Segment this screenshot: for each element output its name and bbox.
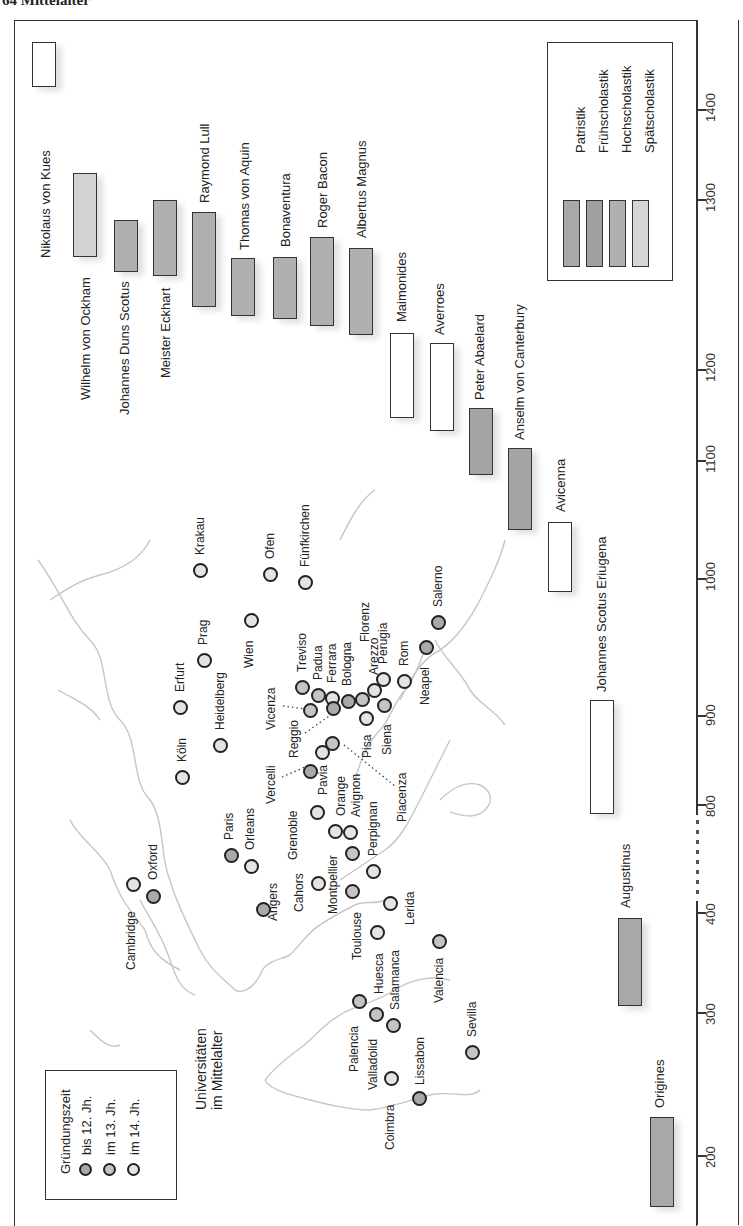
axis-tick-label: 900 — [703, 704, 718, 726]
city-marker-bologna — [341, 694, 356, 709]
city-label-vicenza: Vicenza — [264, 688, 278, 730]
city-marker-cambridge — [126, 877, 141, 892]
legend-dot-12th — [79, 1163, 92, 1176]
legend-swatch-spaetscholastik — [632, 200, 649, 267]
bar-augustinus — [618, 918, 642, 1006]
page-header: 64 Mittelalter — [2, 0, 90, 9]
city-marker-treviso — [295, 680, 310, 695]
label-averroes: Averroes — [432, 283, 447, 335]
city-label-lerida: Lerida — [403, 892, 417, 925]
city-label-orange: Orange — [334, 776, 348, 816]
bar-meister-eckhart — [153, 200, 177, 276]
map-title: Universitäten im Mittelalter — [193, 1028, 225, 1110]
legend-swatch-fruehscholastik — [586, 200, 603, 267]
city-label-pavia: Pavia — [316, 765, 330, 795]
city-label-florenz: Florenz — [358, 602, 372, 642]
city-label-palencia: Palencia — [347, 1026, 361, 1072]
label-nikolaus-von-kues: Nikolaus von Kues — [38, 150, 53, 258]
city-label-perpignan: Perpignan — [366, 801, 380, 856]
city-label-lissabon: Lissabon — [413, 1037, 427, 1085]
city-marker-valladolid — [369, 1007, 384, 1022]
label-avicenna: Avicenna — [553, 459, 568, 512]
city-marker-ofen — [263, 567, 278, 582]
axis-tick-label: 1200 — [703, 353, 718, 382]
legend-label-hochscholastik: Hochscholastik — [619, 66, 634, 153]
city-label-siena: Siena — [380, 724, 394, 755]
label-meister-eckhart: Meister Eckhart — [158, 288, 173, 378]
axis-tick-label: 200 — [703, 1146, 718, 1168]
city-marker-perugia — [376, 672, 391, 687]
city-marker-padua — [311, 688, 326, 703]
city-marker-prag — [197, 653, 212, 668]
bar-nikolaus-von-kues — [32, 42, 56, 87]
label-augustinus: Augustinus — [618, 844, 633, 908]
bar-thomas-von-aquin — [231, 258, 255, 316]
city-marker-orange — [328, 824, 343, 839]
city-label-pisa: Pisa — [360, 735, 374, 758]
period-legend: Patristik Frühscholastik Hochscholastik … — [547, 42, 673, 281]
city-marker-fuenfkirchen — [298, 575, 313, 590]
city-label-paris: Paris — [222, 813, 236, 840]
city-marker-salerno — [431, 615, 446, 630]
city-label-valencia: Valencia — [432, 958, 446, 1003]
city-label-orleans: Orleans — [243, 808, 257, 850]
city-label-reggio: Reggio — [287, 720, 301, 758]
label-johannes-duns-scotus: Johannes Duns Scotus — [117, 281, 132, 415]
axis-tick-label: 1000 — [703, 562, 718, 591]
label-wilhelm-von-ockham: Wilhelm von Ockham — [78, 277, 93, 400]
bar-wilhelm-von-ockham — [73, 173, 97, 257]
legend-label-14th: im 14. Jh. — [127, 1099, 142, 1155]
city-label-treviso: Treviso — [295, 633, 309, 672]
city-label-cambridge: Cambridge — [124, 911, 138, 970]
city-marker-perpignan — [366, 864, 381, 879]
city-marker-cahors — [311, 876, 326, 891]
city-marker-oxford — [146, 889, 161, 904]
city-marker-huesca — [370, 925, 385, 940]
city-marker-pisa — [359, 711, 374, 726]
axis-tick-label: 800 — [703, 795, 718, 817]
city-label-erfurt: Erfurt — [173, 663, 187, 692]
city-marker-lissabon — [412, 1091, 427, 1106]
city-label-ofen: Ofen — [263, 533, 277, 559]
label-raymond-lull: Raymond Lull — [197, 124, 212, 204]
legend-label-13th: im 13. Jh. — [103, 1099, 118, 1155]
legend-swatch-hochscholastik — [609, 200, 626, 267]
city-marker-paris — [224, 848, 239, 863]
city-label-bologna: Bologna — [340, 642, 354, 686]
label-anselm-von-canterbury: Anselm von Canterbury — [512, 304, 527, 440]
city-label-toulouse: Toulouse — [350, 912, 364, 960]
founding-legend-title: Gründungszeit — [58, 1089, 73, 1174]
legend-label-fruehscholastik: Frühscholastik — [596, 69, 611, 153]
axis-tick-label: 1100 — [703, 445, 718, 473]
city-label-salerno: Salerno — [431, 566, 445, 607]
city-label-fuenfkirchen: Fünfkirchen — [298, 504, 312, 567]
city-marker-sevilla — [465, 1045, 480, 1060]
city-marker-lerida — [383, 896, 398, 911]
map-title-line1: Universitäten — [193, 1028, 209, 1110]
city-label-wien: Wien — [242, 641, 256, 668]
legend-dot-13th — [103, 1163, 116, 1176]
city-label-sevilla: Sevilla — [465, 1002, 479, 1037]
label-origines: Origines — [652, 1060, 667, 1108]
bar-origines — [650, 1117, 674, 1207]
founding-legend: Gründungszeit bis 12. Jh. im 13. Jh. im … — [45, 1070, 177, 1200]
city-marker-rom — [397, 674, 412, 689]
label-albertus-magnus: Albertus Magnus — [354, 140, 369, 238]
city-label-piacenza: Piacenza — [395, 773, 409, 822]
label-maimonides: Maimonides — [394, 252, 409, 322]
city-marker-orleans — [244, 859, 259, 874]
bar-avicenna — [548, 522, 572, 592]
bar-raymond-lull — [192, 212, 216, 307]
city-marker-valencia — [432, 934, 447, 949]
label-peter-abaelard: Peter Abaelard — [472, 314, 487, 400]
city-marker-salamanca — [386, 1018, 401, 1033]
city-label-padua: Padua — [311, 645, 325, 680]
axis-tick-label: 1400 — [703, 93, 718, 122]
city-label-avignon: Avignon — [349, 774, 363, 817]
city-label-valladolid: Valladolid — [366, 1039, 380, 1090]
city-marker-montpellier — [345, 846, 360, 861]
city-marker-neapel — [419, 640, 434, 655]
label-roger-bacon: Roger Bacon — [315, 152, 330, 228]
city-label-oxford: Oxford — [146, 844, 160, 880]
city-label-ferrara: Ferrara — [325, 644, 339, 683]
